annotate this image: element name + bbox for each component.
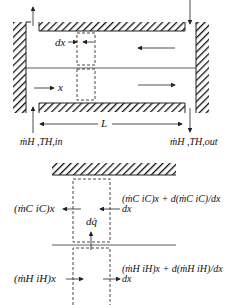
cold-left-label: (ṁC iC)x bbox=[14, 203, 55, 214]
right-wall-hatch bbox=[196, 22, 209, 113]
top-wall-hatch bbox=[39, 22, 185, 31]
top-exchanger bbox=[13, 0, 209, 133]
cold-right-label: (ṁC iC)x + d(ṁC iC)/dx dx bbox=[122, 194, 232, 214]
wall-hatch bbox=[52, 163, 176, 175]
cold-cv bbox=[73, 179, 110, 242]
control-volume-upper bbox=[77, 33, 95, 65]
hot-outlet-label: ṁH ,TH,out bbox=[170, 137, 218, 147]
dx-label: dx bbox=[55, 37, 65, 48]
hot-right-label: (ṁH iH)x + d(ṁH iH)/dx dx bbox=[122, 264, 232, 284]
left-wall-hatch bbox=[13, 22, 26, 113]
hot-cv bbox=[73, 248, 110, 305]
bottom-wall-hatch bbox=[39, 103, 185, 112]
control-volume-lower bbox=[77, 69, 95, 100]
hot-inlet-label: ṁH ,TH,in bbox=[20, 137, 63, 147]
hot-left-label: (ṁH iH)x bbox=[14, 273, 56, 284]
heat-exchanger-diagram bbox=[0, 0, 251, 305]
dq-label: dq̇ bbox=[86, 216, 97, 227]
length-label: L bbox=[101, 118, 107, 129]
x-label: x bbox=[58, 82, 63, 93]
